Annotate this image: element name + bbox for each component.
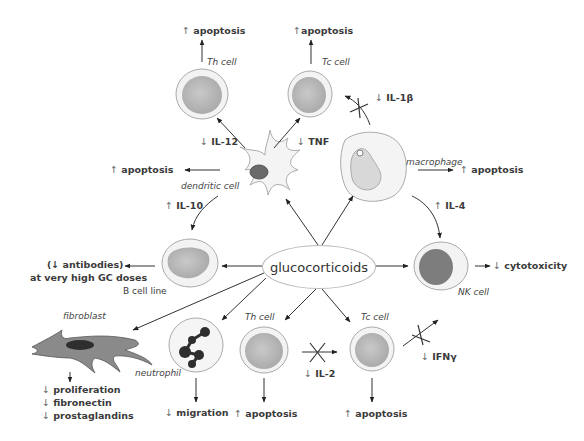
il1b-effect: ↓ IL-1β: [375, 92, 413, 104]
glucocorticoids-node: glucocorticoids: [262, 245, 376, 289]
nk-cell-label: NK cell: [458, 286, 489, 298]
tc-bottom-effect: ↑ apoptosis: [344, 408, 407, 420]
diagram-graphics: [0, 0, 584, 441]
fibroblast-effect-3: ↓ prostaglandins: [42, 410, 134, 422]
b-cell-label: B cell line: [123, 285, 167, 297]
macrophage-label: macrophage: [406, 156, 463, 168]
fibroblast-effect-2: ↓ fibronectin: [42, 397, 112, 409]
th-bottom-effect: ↑ apoptosis: [234, 408, 297, 420]
tnf-effect: ↓ TNF: [297, 136, 329, 148]
antibodies-effect-line2: at very high GC doses: [30, 272, 147, 284]
il2-effect: ↓ IL-2: [304, 368, 335, 380]
neutrophil-effect: ↓ migration: [165, 407, 228, 419]
fibroblast-effect-1: ↓ proliferation: [42, 384, 121, 396]
th-top-effect: ↑ apoptosis: [182, 25, 245, 37]
dendritic-cell-icon: [240, 130, 300, 195]
fibroblast-icon: [32, 330, 152, 373]
tc-top-effect: ↑apoptosis: [293, 25, 353, 37]
th-cell-bottom-label: Th cell: [245, 311, 275, 323]
neutrophil-label: neutrophil: [135, 367, 181, 379]
il12-effect: ↓ IL-12: [200, 136, 238, 148]
tc-cell-top-icon: [288, 71, 332, 117]
th-cell-bottom-icon: [240, 327, 288, 373]
fibroblast-label: fibroblast: [63, 310, 106, 322]
tc-cell-bottom-icon: [350, 327, 394, 371]
neutrophil-icon: [169, 318, 223, 372]
macrophage-icon: [341, 132, 407, 201]
antibodies-effect-line1: (↓ antibodies): [47, 259, 123, 271]
il10-effect: ↑ IL-10: [165, 200, 203, 212]
glucocorticoids-label: glucocorticoids: [270, 260, 368, 275]
dendritic-effect: ↑ apoptosis: [110, 164, 173, 176]
ifng-effect: ↓ IFNγ: [421, 351, 457, 363]
b-cell-icon: [162, 239, 218, 287]
tc-cell-top-label: Tc cell: [322, 56, 350, 68]
th-cell-top-label: Th cell: [207, 56, 237, 68]
nk-effect: ↓ cytotoxicity: [493, 260, 567, 272]
nk-cell-icon: [414, 242, 468, 290]
dendritic-cell-label: dendritic cell: [181, 180, 239, 192]
th-cell-top-icon: [176, 69, 228, 119]
macrophage-effect: ↑ apoptosis: [460, 164, 523, 176]
il4-effect: ↑ IL-4: [434, 200, 465, 212]
tc-cell-bottom-label: Tc cell: [361, 311, 389, 323]
